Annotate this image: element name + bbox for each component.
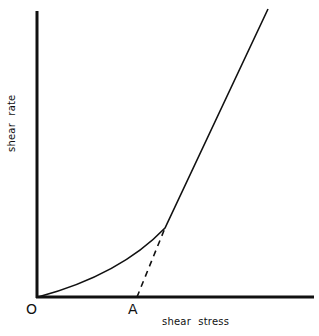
flow-curve-diagram: [0, 0, 319, 336]
y-axis-label: shear rate: [6, 95, 17, 152]
x-axis-label: shear stress: [162, 316, 229, 327]
origin-label: O: [26, 301, 37, 317]
extrapolation-dashed-line: [137, 228, 165, 297]
intercept-label-a: A: [128, 301, 138, 317]
flow-curve: [38, 9, 268, 297]
